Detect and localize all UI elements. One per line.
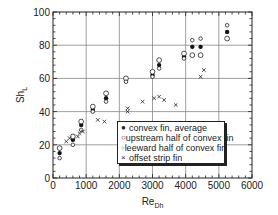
x-tick-label: 2000 [108,180,131,191]
y-axis-label: ShL [15,87,28,103]
data-point [157,58,162,63]
data-point [151,75,155,79]
y-tick-label: 80 [39,40,51,51]
data-point [57,151,61,155]
legend-label: offset strip fin [129,153,182,163]
x-tick-label: 4000 [175,180,198,191]
data-point [190,53,195,58]
legend-label: convex fin, average [129,123,207,133]
data-point [191,38,195,42]
data-point [58,156,62,160]
data-point [71,143,75,147]
data-point [225,36,230,41]
y-tick-label: 40 [39,107,51,118]
y-tick-label: 100 [33,7,50,18]
data-point [104,91,109,96]
filled-circle-icon: ● [121,123,129,133]
data-point [225,23,229,27]
x-mark-icon: × [121,153,129,163]
data-point [104,100,108,104]
data-point [157,67,161,71]
data-point [182,51,187,56]
data-point [79,119,84,124]
x-tick-label: 0 [50,180,56,191]
legend-item-leeward: ○ leeward half of convex fin [121,143,221,153]
legend-item-upstream: ○ upstream half of convex fin [121,133,221,143]
x-tick-label: 5000 [208,180,231,191]
data-point [90,104,95,109]
data-point [225,30,229,34]
data-point [199,37,203,41]
data-point [198,53,203,58]
x-axis-label: ReDh [142,196,164,209]
legend-label: leeward half of convex fin [125,143,227,153]
data-point [182,57,186,61]
x-tick-label: 3000 [141,180,164,191]
data-point [190,45,194,49]
legend-item-convex-average: ● convex fin, average [121,123,221,133]
y-tick-label: 0 [44,173,50,184]
legend: ● convex fin, average ○ upstream half of… [117,121,225,164]
scatter-chart: 0100020003000400050006000020406080100ReD… [0,0,278,215]
x-tick-label: 1000 [75,180,98,191]
data-point [91,110,95,114]
y-tick-label: 60 [39,73,51,84]
data-point [150,69,155,74]
legend-label: upstream half of convex fin [126,133,234,143]
data-point [124,80,128,84]
x-tick-label: 6000 [241,180,264,191]
data-point [57,146,62,151]
y-tick-label: 20 [39,140,51,151]
data-point [198,45,202,49]
legend-item-offset-strip: × offset strip fin [121,153,221,163]
